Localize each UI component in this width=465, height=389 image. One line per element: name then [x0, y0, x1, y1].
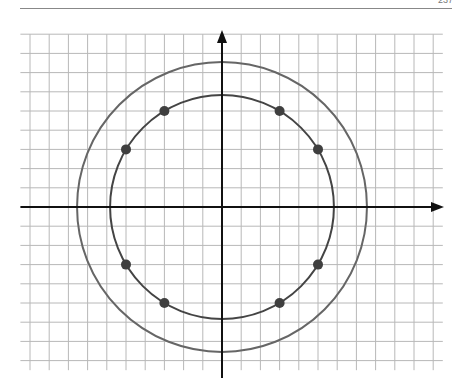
- plotted-point: [121, 260, 131, 270]
- grid-lines: [20, 34, 442, 370]
- plotted-point: [275, 298, 285, 308]
- plotted-point: [313, 260, 323, 270]
- axes: [20, 30, 444, 378]
- plotted-point: [159, 106, 169, 116]
- plotted-point: [159, 298, 169, 308]
- plotted-point: [313, 144, 323, 154]
- coordinate-grid-figure: [0, 0, 465, 389]
- plotted-point: [121, 144, 131, 154]
- y-axis-arrow-icon: [217, 30, 227, 43]
- x-axis-arrow-icon: [431, 202, 444, 212]
- plotted-point: [275, 106, 285, 116]
